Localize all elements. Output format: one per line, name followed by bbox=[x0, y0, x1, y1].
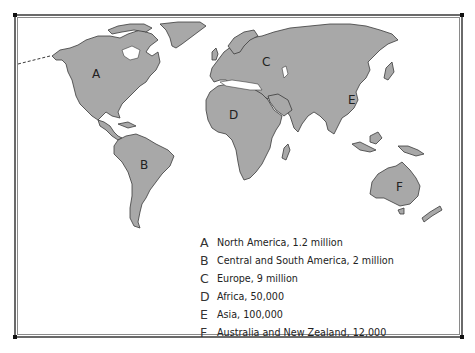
legend-text: Australia and New Zealand, 12,000 bbox=[217, 327, 386, 338]
landmass-madagascar bbox=[282, 144, 290, 160]
landmass-central-america bbox=[98, 120, 122, 140]
landmass-british-isles bbox=[212, 48, 218, 60]
region-label-d: D bbox=[229, 108, 238, 122]
legend-item: A North America, 1.2 million bbox=[200, 233, 394, 251]
landmass-indonesia bbox=[352, 142, 376, 152]
landmass-japan bbox=[384, 62, 394, 80]
legend-letter: E bbox=[200, 307, 217, 322]
legend-item: E Asia, 100,000 bbox=[200, 305, 394, 323]
landmass-australia bbox=[370, 162, 420, 206]
region-label-e: E bbox=[348, 93, 356, 107]
landmass-caribbean bbox=[118, 122, 136, 128]
legend-text: Asia, 100,000 bbox=[217, 309, 283, 320]
landmass-greenland bbox=[160, 22, 206, 48]
legend-text: North America, 1.2 million bbox=[217, 237, 343, 248]
legend-letter: C bbox=[200, 271, 217, 286]
map-legend: A North America, 1.2 million B Central a… bbox=[200, 233, 394, 341]
legend-letter: F bbox=[200, 325, 217, 340]
legend-text: Europe, 9 million bbox=[217, 273, 298, 284]
landmass-south-america bbox=[114, 134, 174, 228]
legend-text: Africa, 50,000 bbox=[217, 291, 284, 302]
landmass-tasmania bbox=[398, 208, 404, 214]
region-label-c: C bbox=[262, 55, 270, 69]
legend-item: B Central and South America, 2 million bbox=[200, 251, 394, 269]
legend-letter: B bbox=[200, 253, 217, 268]
landmass-borneo bbox=[370, 132, 382, 144]
landmass-north-america bbox=[52, 30, 160, 120]
legend-item: C Europe, 9 million bbox=[200, 269, 394, 287]
aleutian-islands bbox=[18, 56, 50, 64]
legend-letter: D bbox=[200, 289, 217, 304]
legend-item: D Africa, 50,000 bbox=[200, 287, 394, 305]
legend-text: Central and South America, 2 million bbox=[217, 255, 394, 266]
region-label-a: A bbox=[92, 67, 101, 81]
legend-item: F Australia and New Zealand, 12,000 bbox=[200, 323, 394, 341]
region-label-f: F bbox=[396, 180, 403, 194]
region-label-b: B bbox=[140, 158, 148, 172]
legend-letter: A bbox=[200, 235, 217, 250]
landmass-new-guinea bbox=[398, 146, 424, 156]
landmass-new-zealand bbox=[422, 206, 442, 222]
